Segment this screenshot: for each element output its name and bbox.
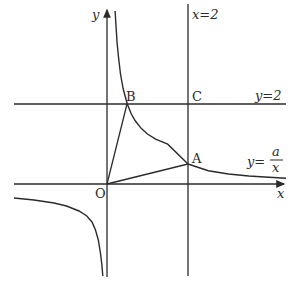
point-C-label: C xyxy=(192,89,202,104)
point-B-label: B xyxy=(126,89,136,104)
curve-label-numerator: a xyxy=(272,144,280,159)
point-A-label: A xyxy=(191,151,202,166)
curve-label-denominator: x xyxy=(272,160,280,175)
curve-label: y= a x xyxy=(246,144,283,175)
hyperbola-lower-branch xyxy=(14,198,103,276)
hyperbola-diagram: y x x=2 y=2 O A B C y= a x xyxy=(0,0,296,289)
vertical-line-label: x=2 xyxy=(192,7,219,22)
curve-label-prefix: y= xyxy=(246,154,265,169)
horizontal-line-label: y=2 xyxy=(254,88,282,103)
segment-OB xyxy=(107,104,127,184)
point-O-label: O xyxy=(95,186,106,201)
x-axis-label: x xyxy=(277,186,285,201)
y-axis-label: y xyxy=(91,7,100,22)
diagram-canvas: y x x=2 y=2 O A B C y= a x xyxy=(0,0,296,289)
segment-OA xyxy=(107,164,188,184)
